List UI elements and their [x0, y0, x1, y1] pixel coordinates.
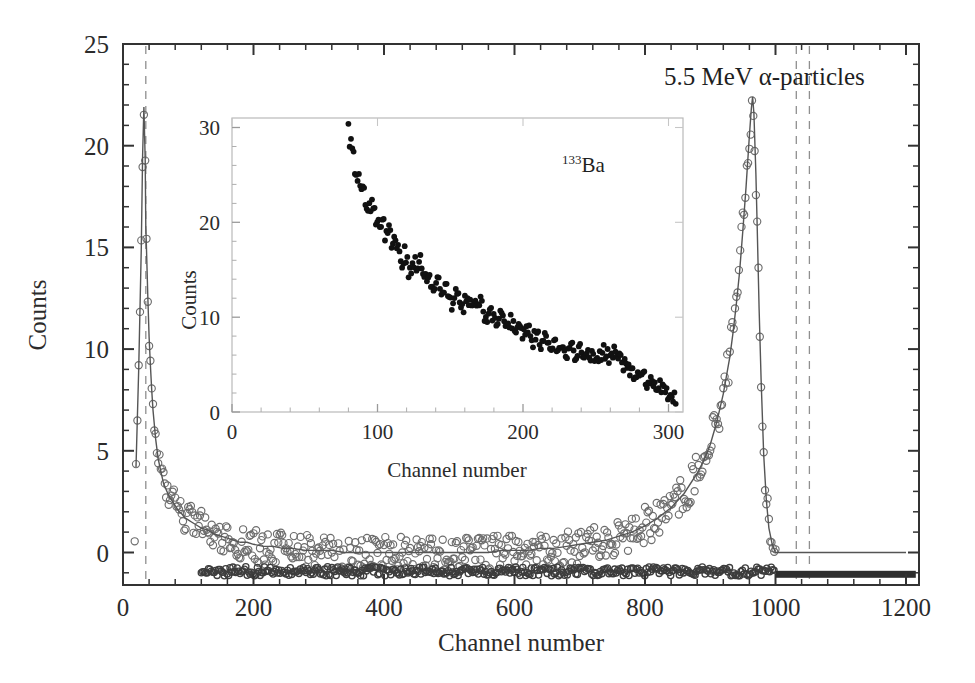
main-x-axis-title: Channel number — [438, 629, 605, 656]
data-point-open-circle — [738, 223, 745, 230]
data-point-open-circle — [165, 501, 172, 508]
x-tick-label: 1200 — [881, 594, 931, 621]
data-point-open-circle — [131, 538, 138, 545]
figure-container: 020040060080010001200 0510152025 Channel… — [0, 0, 975, 683]
inset-data-point — [538, 346, 544, 352]
data-point-open-circle — [716, 425, 723, 432]
inset-background — [232, 118, 683, 412]
inset-data-point — [432, 286, 438, 292]
main-x-tick-labels: 020040060080010001200 — [117, 594, 931, 621]
inset-data-point — [569, 340, 575, 346]
data-point-open-circle — [439, 536, 446, 543]
inset-data-point — [630, 365, 636, 371]
inset-data-point — [351, 149, 357, 155]
inset-data-point — [449, 307, 455, 313]
inset-data-point — [456, 290, 462, 296]
inset-data-point — [427, 272, 433, 278]
x-tick-label: 1000 — [751, 594, 801, 621]
inset-data-point — [404, 254, 410, 260]
data-point-open-circle — [554, 549, 561, 556]
inset-panel: 0100200300 0102030 Channel number Counts… — [177, 116, 684, 482]
inset-data-point — [369, 197, 375, 203]
inset-y-tick-labels: 0102030 — [199, 116, 220, 425]
data-point-open-circle — [691, 488, 698, 495]
inset-data-point — [479, 298, 485, 304]
inset-data-point — [546, 340, 552, 346]
inset-data-point — [395, 242, 401, 248]
x-tick-label: 0 — [117, 594, 130, 621]
data-point-open-circle — [533, 557, 540, 564]
inset-data-point — [652, 379, 658, 385]
inset-data-point — [356, 171, 362, 177]
data-point-open-circle — [515, 538, 522, 545]
inset-y-axis-title: Counts — [177, 270, 201, 330]
data-point-open-circle — [397, 533, 404, 540]
inset-data-point — [361, 185, 367, 191]
inset-data-point — [436, 275, 442, 281]
main-y-tick-labels: 0510152025 — [84, 31, 109, 567]
inset-data-point — [664, 385, 670, 391]
inset-data-point — [564, 355, 570, 361]
inset-data-point — [416, 259, 422, 265]
inset-data-point — [378, 224, 384, 230]
inset-data-point — [511, 318, 517, 324]
data-point-open-circle — [423, 555, 430, 562]
inset-data-point — [355, 178, 361, 184]
inset-data-point — [552, 337, 558, 343]
inset-data-point — [500, 313, 506, 319]
inset-data-point — [605, 346, 611, 352]
inset-y-tick-label: 0 — [210, 401, 221, 425]
inset-data-point — [402, 243, 408, 249]
baseline-bar — [776, 571, 916, 578]
data-point-open-circle — [454, 538, 461, 545]
inset-isotope-symbol: Ba — [582, 153, 606, 177]
inset-data-point — [386, 222, 392, 228]
y-tick-label: 10 — [84, 336, 109, 363]
inset-data-point — [495, 321, 501, 327]
data-point-open-circle — [692, 453, 699, 460]
data-point-open-circle — [564, 528, 571, 535]
inset-data-point — [530, 344, 536, 350]
x-tick-label: 400 — [365, 594, 403, 621]
inset-data-point — [348, 136, 354, 142]
inset-data-point — [543, 333, 549, 339]
inset-data-point — [672, 390, 678, 396]
main-baseline-bar — [776, 571, 916, 578]
data-point-open-circle — [640, 540, 647, 547]
data-point-open-circle — [648, 536, 655, 543]
data-point-open-circle — [170, 486, 177, 493]
data-point-open-circle — [403, 537, 410, 544]
inset-data-point — [533, 337, 539, 343]
y-tick-label: 20 — [84, 133, 109, 160]
data-point-open-circle — [307, 540, 314, 547]
main-y-axis-title: Counts — [24, 280, 51, 351]
inset-data-point — [408, 271, 414, 277]
inset-isotope-mass-number: 133 — [562, 152, 582, 167]
inset-data-point — [480, 309, 486, 315]
inset-x-tick-labels: 0100200300 — [227, 420, 685, 444]
inset-data-point — [382, 238, 388, 244]
y-tick-label: 0 — [97, 540, 110, 567]
inset-data-point — [571, 348, 577, 354]
inset-data-point — [606, 360, 612, 366]
data-point-open-circle — [649, 512, 656, 519]
main-annotation-label: 5.5 MeV α-particles — [664, 63, 865, 90]
inset-y-tick-label: 30 — [199, 116, 220, 140]
inset-data-point — [577, 341, 583, 347]
data-point-open-circle — [747, 131, 754, 138]
inset-data-point — [673, 401, 679, 407]
y-tick-label: 15 — [84, 234, 109, 261]
y-tick-label: 5 — [97, 438, 110, 465]
data-point-open-circle — [240, 526, 247, 533]
data-point-open-circle — [611, 549, 618, 556]
inset-data-point — [412, 254, 418, 260]
inset-x-axis-title: Channel number — [387, 458, 526, 482]
inset-data-point — [484, 319, 490, 325]
inset-data-point — [461, 309, 467, 315]
x-tick-label: 800 — [626, 594, 664, 621]
data-point-open-circle — [677, 477, 684, 484]
inset-x-tick-label: 0 — [227, 420, 238, 444]
inset-data-point — [372, 205, 378, 211]
inset-data-point — [508, 312, 514, 318]
inset-data-point — [418, 252, 424, 258]
